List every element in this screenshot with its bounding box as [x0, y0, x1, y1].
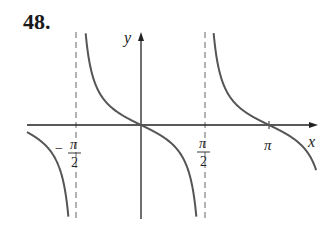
y-axis-label: y: [122, 29, 132, 47]
x-axis-label: x: [307, 133, 315, 150]
x-axis-arrow-icon: [309, 122, 318, 128]
graph: y x − π 2 π 2 π: [0, 0, 324, 236]
tick-label-neg-pi-2-den: 2: [71, 155, 78, 170]
tick-label-neg-pi-2-sign: −: [55, 141, 63, 156]
tick-label-pi: π: [264, 137, 272, 153]
tick-label-pi-2-den: 2: [200, 154, 207, 169]
tick-label-neg-pi-2-num: π: [70, 137, 78, 152]
tick-label-pi-2-num: π: [199, 136, 207, 151]
y-axis-arrow-icon: [138, 32, 144, 41]
